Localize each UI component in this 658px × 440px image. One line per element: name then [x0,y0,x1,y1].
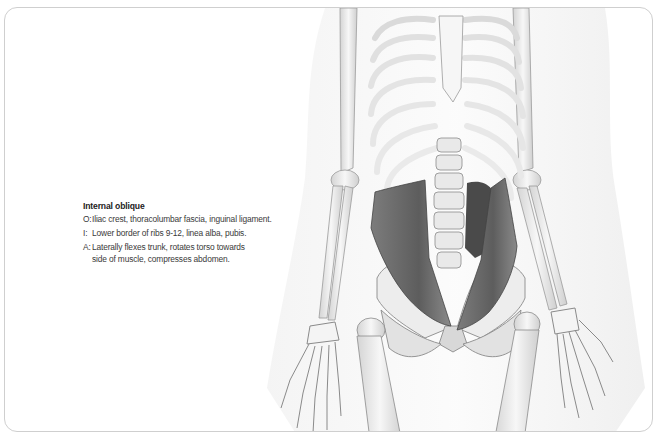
action-label: A: [83,241,92,253]
insertion-text: Lower border of ribs 9-12, linea alba, p… [92,227,323,239]
muscle-caption: Internal oblique O: Iliac crest, thoraco… [83,200,323,265]
action-entry-continued: side of muscle, compresses abdomen. [83,253,323,265]
origin-label: O: [83,213,92,225]
lumbar-spine [434,138,464,268]
action-text-line-1: Laterally flexes trunk, rotates torso to… [92,241,323,253]
figure-frame: Internal oblique O: Iliac crest, thoraco… [4,7,653,432]
origin-entry: O: Iliac crest, thoracolumbar fascia, in… [83,213,323,225]
insertion-entry: I: Lower border of ribs 9-12, linea alba… [83,227,323,239]
action-text-line-2: side of muscle, compresses abdomen. [92,253,323,265]
action-entry: A: Laterally flexes trunk, rotates torso… [83,241,323,253]
insertion-label: I: [83,227,92,239]
muscle-name: Internal oblique [83,200,323,212]
origin-text: Iliac crest, thoracolumbar fascia, ingui… [92,213,323,225]
action-indent [83,253,92,265]
